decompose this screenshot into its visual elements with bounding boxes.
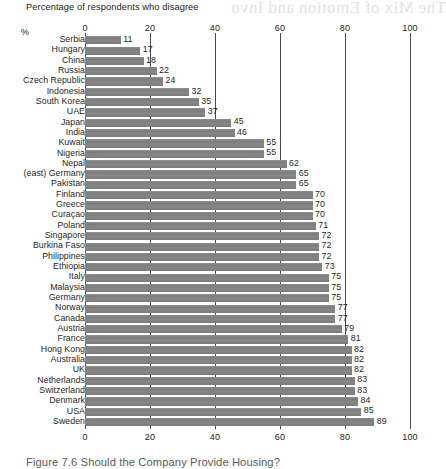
- bar: [85, 346, 352, 354]
- bar: [85, 263, 322, 271]
- x-axis-tick-label-top: 80: [340, 23, 350, 33]
- bar-row: Malaysia75: [0, 284, 443, 292]
- x-axis-tick-label-top: 100: [402, 23, 418, 33]
- bar-category-label: Poland: [57, 221, 85, 230]
- bar-row: Canada77: [0, 315, 443, 323]
- bar-category-label: Malaysia: [50, 283, 85, 292]
- x-axis-tick-label-bottom: 100: [402, 432, 418, 442]
- bar-row: Sweden89: [0, 418, 443, 426]
- bar: [85, 418, 374, 426]
- bar: [85, 232, 319, 240]
- bar: [85, 305, 335, 313]
- bar-category-label: Indonesia: [47, 87, 85, 96]
- bar: [85, 160, 287, 168]
- bar: [85, 108, 205, 116]
- bar-row: (east) Germany65: [0, 170, 443, 178]
- bar-row: Indonesia32: [0, 88, 443, 96]
- bar-category-label: UK: [73, 365, 85, 374]
- bar-row: USA85: [0, 408, 443, 416]
- bar-row: Hong Kong82: [0, 346, 443, 354]
- bar-value-label: 70: [315, 210, 325, 219]
- bar: [85, 77, 163, 85]
- bar-category-label: Kuwait: [58, 138, 85, 147]
- bar-category-label: UAE: [67, 107, 85, 116]
- bar-category-label: Finland: [56, 190, 85, 199]
- bar: [85, 397, 358, 405]
- bar-row: Nepal62: [0, 160, 443, 168]
- bar: [85, 356, 352, 364]
- bar-value-label: 35: [201, 97, 211, 106]
- x-axis-tick-label-bottom: 0: [82, 432, 87, 442]
- bar-category-label: France: [58, 334, 86, 343]
- bar: [85, 212, 313, 220]
- bar-category-label: Ethiopia: [53, 262, 85, 271]
- bar-category-label: Russia: [58, 66, 85, 75]
- bar-category-label: Philippines: [42, 252, 85, 261]
- bar-row: Switzerland83: [0, 387, 443, 395]
- bar-row: Norway77: [0, 305, 443, 313]
- bar-category-label: Nigeria: [57, 149, 85, 158]
- bar-value-label: 22: [159, 66, 169, 75]
- bar-value-label: 55: [266, 148, 276, 157]
- bar-row: Nigeria55: [0, 150, 443, 158]
- x-axis-tick-label-top: 0: [82, 23, 87, 33]
- bar-row: France81: [0, 335, 443, 343]
- bar-category-label: Germany: [49, 293, 85, 302]
- bar-row: Austria79: [0, 325, 443, 333]
- bar-value-label: 83: [357, 375, 367, 384]
- bar: [85, 335, 348, 343]
- bar-row: India46: [0, 129, 443, 137]
- bar: [85, 57, 144, 65]
- bar: [85, 201, 313, 209]
- bar-category-label: (east) Germany: [24, 169, 85, 178]
- bar-category-label: Netherlands: [37, 376, 85, 385]
- bar-value-label: 37: [208, 107, 218, 116]
- bar-row: Pakistan65: [0, 181, 443, 189]
- bar: [85, 170, 296, 178]
- bar-row: Curaçao70: [0, 212, 443, 220]
- bar-row: Burkina Faso72: [0, 243, 443, 251]
- bar-value-label: 18: [146, 56, 156, 65]
- x-axis-tick-label-top: 40: [210, 23, 220, 33]
- bar: [85, 88, 189, 96]
- bar: [85, 191, 313, 199]
- bar-value-label: 17: [143, 45, 153, 54]
- bar-value-label: 65: [299, 169, 309, 178]
- bar-row: Netherlands83: [0, 377, 443, 385]
- bar-row: South Korea35: [0, 98, 443, 106]
- bar-value-label: 24: [166, 76, 176, 85]
- bar-category-label: Greece: [56, 200, 85, 209]
- bar-row: Singapore72: [0, 232, 443, 240]
- x-axis-tick-label-top: 20: [145, 23, 155, 33]
- bar: [85, 119, 231, 127]
- bar-row: Poland71: [0, 222, 443, 230]
- bar-row: Greece70: [0, 201, 443, 209]
- bar-value-label: 55: [266, 138, 276, 147]
- bar-category-label: Switzerland: [39, 386, 85, 395]
- bar-value-label: 89: [377, 417, 387, 426]
- bar-row: Finland70: [0, 191, 443, 199]
- bar: [85, 408, 361, 416]
- bar: [85, 366, 352, 374]
- bar-row: Australia82: [0, 356, 443, 364]
- bar: [85, 387, 355, 395]
- bar-category-label: Singapore: [45, 231, 85, 240]
- bar-value-label: 82: [354, 345, 364, 354]
- bar-row: China18: [0, 57, 443, 65]
- bar-category-label: Sweden: [53, 417, 85, 426]
- x-axis-tick-label-bottom: 60: [275, 432, 285, 442]
- x-axis-tick-label-bottom: 40: [210, 432, 220, 442]
- bar-row: UK82: [0, 366, 443, 374]
- figure-caption: Figure 7.6 Should the Company Provide Ho…: [26, 456, 280, 468]
- bar-category-label: South Korea: [36, 97, 85, 106]
- x-axis-tick-label-bottom: 80: [340, 432, 350, 442]
- bar: [85, 47, 140, 55]
- bar-value-label: 71: [318, 221, 328, 230]
- bar-row: Serbia11: [0, 36, 443, 44]
- bar-value-label: 75: [331, 283, 341, 292]
- bar-category-label: Czech Republic: [23, 76, 85, 85]
- bar-value-label: 73: [325, 262, 335, 271]
- bar: [85, 98, 199, 106]
- bar-value-label: 75: [331, 272, 341, 281]
- bar: [85, 243, 319, 251]
